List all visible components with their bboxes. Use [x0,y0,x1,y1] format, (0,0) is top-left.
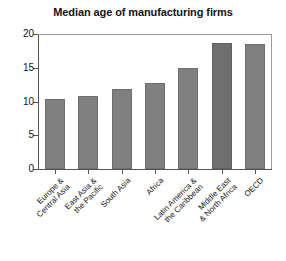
chart-figure: Median age of manufacturing firms 201510… [0,0,286,261]
x-axis-tick [122,170,123,174]
x-axis-tick [155,170,156,174]
y-axis-label: 5 [0,129,34,140]
x-axis-tick [55,170,56,174]
x-axis-tick [188,170,189,174]
x-axis-tick [255,170,256,174]
bar [45,99,65,169]
bar [245,44,265,169]
x-axis-tick [222,170,223,174]
y-axis-label: 20 [0,28,34,39]
plot-top-border [38,34,272,35]
y-axis-label: 10 [0,96,34,107]
chart-title: Median age of manufacturing firms [0,6,286,18]
y-axis-label: 15 [0,62,34,73]
y-axis-label: 0 [0,163,34,174]
x-axis-tick [88,170,89,174]
bar [112,89,132,169]
bar [212,43,232,169]
bar [78,96,98,169]
bar [178,68,198,169]
bar [145,83,165,169]
plot-right-border [271,34,272,169]
plot-area [38,34,272,169]
